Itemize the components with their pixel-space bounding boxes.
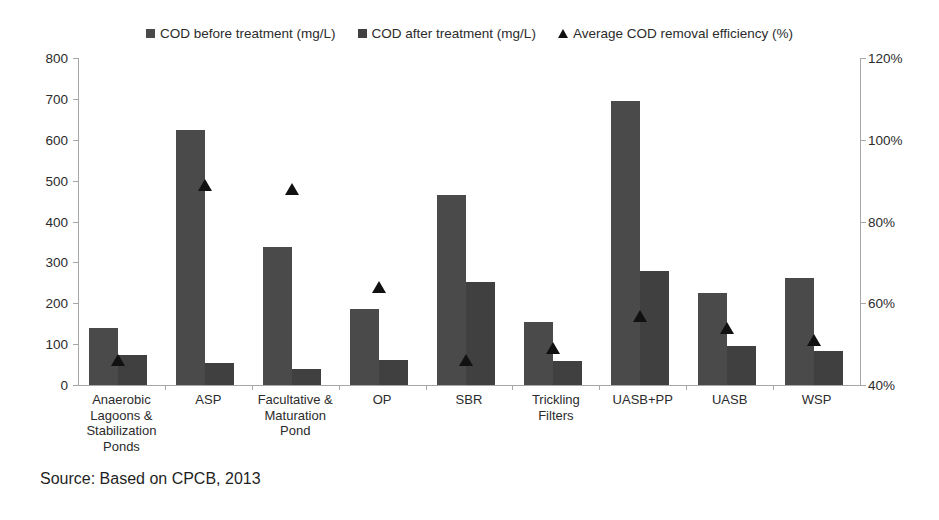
bar-cod-before [176,130,205,385]
y-axis-left-tick [73,385,78,386]
x-axis-category-label: Facultative & Maturation Pond [252,392,339,439]
x-axis-category-label: UASB+PP [599,392,686,408]
x-axis-separator-tick [426,385,427,390]
bar-cod-before [350,309,379,385]
x-axis-category-label: WSP [773,392,860,408]
y-axis-right-tick-label: 100% [868,132,903,147]
y-axis-right-tick [861,140,866,141]
y-axis-right-tick-label: 60% [868,296,895,311]
x-axis-line [78,385,861,386]
x-axis-category-label: Trickling Filters [512,392,599,423]
y-axis-left-tick-label: 300 [8,255,68,270]
square-swatch-icon [146,29,155,38]
legend-label-removal-efficiency: Average COD removal efficiency (%) [573,26,793,41]
y-axis-right-tick-label: 120% [868,51,903,66]
y-axis-left-tick-label: 700 [8,91,68,106]
legend-item-cod-after: COD after treatment (mg/L) [358,26,536,41]
bar-cod-after [379,360,408,385]
cod-treatment-chart: COD before treatment (mg/L) COD after tr… [0,0,939,520]
legend-label-cod-before: COD before treatment (mg/L) [160,26,336,41]
bar-cod-before [263,247,292,385]
legend-label-cod-after: COD after treatment (mg/L) [372,26,536,41]
x-axis-separator-tick [773,385,774,390]
y-axis-right-tick [861,385,866,386]
y-axis-left-tick-label: 400 [8,214,68,229]
x-axis-category-label: ASP [165,392,252,408]
legend-item-cod-before: COD before treatment (mg/L) [146,26,336,41]
marker-removal-efficiency [111,354,125,366]
marker-removal-efficiency [720,322,734,334]
square-swatch-icon [358,29,367,38]
legend-item-removal-efficiency: Average COD removal efficiency (%) [558,26,793,41]
bar-cod-after [292,369,321,385]
bar-cod-after [640,271,669,385]
marker-removal-efficiency [459,354,473,366]
x-axis-category-label: Anaerobic Lagoons & Stabilization Ponds [78,392,165,454]
y-axis-right-tick [861,303,866,304]
x-axis-category-label: UASB [686,392,773,408]
x-axis-category-label: OP [339,392,426,408]
x-axis-separator-tick [599,385,600,390]
bar-cod-before [611,101,640,385]
x-axis-separator-tick [252,385,253,390]
marker-removal-efficiency [372,281,386,293]
marker-removal-efficiency [285,183,299,195]
plot-area [78,58,860,385]
source-note: Source: Based on CPCB, 2013 [40,470,261,488]
bar-cod-after [727,346,756,385]
chart-legend: COD before treatment (mg/L) COD after tr… [0,26,939,41]
y-axis-left-tick-label: 800 [8,51,68,66]
marker-removal-efficiency [546,342,560,354]
bar-cod-before [698,293,727,385]
y-axis-left-tick-label: 0 [8,378,68,393]
x-axis-separator-tick [339,385,340,390]
y-axis-right-tick [861,58,866,59]
y-axis-right-tick-label: 80% [868,214,895,229]
x-axis-category-label: SBR [426,392,513,408]
bar-cod-before [785,278,814,385]
x-axis-separator-tick [686,385,687,390]
x-axis-separator-tick [165,385,166,390]
marker-removal-efficiency [198,179,212,191]
x-axis-separator-tick [512,385,513,390]
y-axis-left-tick-label: 200 [8,296,68,311]
bar-cod-after [466,282,495,385]
bar-cod-after [553,361,582,385]
marker-removal-efficiency [633,310,647,322]
y-axis-left-tick-label: 100 [8,337,68,352]
y-axis-left-tick-label: 500 [8,173,68,188]
y-axis-right-tick-label: 40% [868,378,895,393]
triangle-marker-icon [558,29,568,38]
marker-removal-efficiency [807,334,821,346]
y-axis-right-tick [861,222,866,223]
bar-cod-after [814,351,843,385]
bar-cod-after [205,363,234,385]
y-axis-left-tick-label: 600 [8,132,68,147]
